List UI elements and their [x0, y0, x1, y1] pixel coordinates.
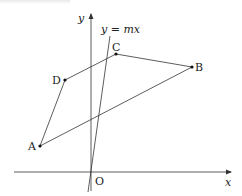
point-b-dot	[190, 65, 193, 68]
point-d-dot	[63, 78, 66, 81]
y-axis-label: y	[78, 13, 84, 24]
quadrilateral-abcd	[40, 54, 192, 146]
point-d-label: D	[52, 75, 61, 86]
point-b-label: B	[195, 62, 203, 73]
point-c-label: C	[112, 42, 120, 53]
line-equation-label: y = mx	[101, 24, 140, 35]
x-axis-label: x	[225, 177, 231, 188]
point-a-dot	[38, 144, 41, 147]
diagram-canvas: y x O y = mx A B C D	[0, 0, 242, 196]
origin-label: O	[95, 176, 104, 187]
point-a-label: A	[28, 141, 36, 152]
